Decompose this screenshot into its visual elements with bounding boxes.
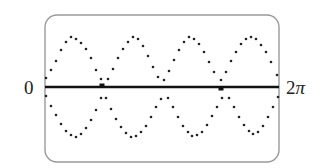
data-point — [65, 41, 68, 44]
data-point — [255, 38, 258, 41]
data-point — [198, 43, 201, 46]
data-point — [213, 71, 216, 74]
data-point — [90, 119, 93, 122]
data-point — [238, 116, 241, 119]
data-point — [257, 131, 260, 134]
data-point — [206, 124, 209, 127]
axis-marker — [219, 87, 224, 91]
data-point — [201, 131, 204, 134]
data-point — [60, 123, 63, 126]
data-point — [130, 136, 133, 139]
data-point — [140, 131, 143, 134]
data-point — [262, 125, 265, 128]
plot-area — [0, 0, 330, 168]
data-point — [137, 38, 140, 41]
data-point — [167, 97, 170, 100]
axis-label-end: 2π — [286, 78, 305, 97]
data-point — [122, 48, 125, 51]
data-point — [182, 125, 185, 128]
lower-curve-dots — [45, 95, 280, 139]
axis-marker — [100, 84, 105, 88]
data-point — [177, 116, 180, 119]
pi-symbol: π — [296, 77, 306, 98]
data-point — [228, 97, 231, 100]
data-point — [115, 118, 118, 121]
data-point — [163, 79, 166, 82]
data-point — [45, 95, 48, 98]
data-point — [172, 106, 175, 109]
data-point — [230, 60, 233, 63]
data-point — [80, 42, 83, 45]
data-point — [110, 108, 113, 111]
data-point — [132, 36, 135, 39]
data-point — [178, 49, 181, 52]
data-point — [55, 60, 58, 63]
data-point — [240, 43, 243, 46]
data-point — [216, 106, 219, 109]
data-point — [145, 125, 148, 128]
data-point — [60, 49, 63, 52]
data-point — [45, 77, 48, 80]
data-point — [95, 69, 98, 72]
data-point — [270, 61, 273, 64]
data-point — [107, 78, 110, 81]
data-point — [191, 135, 194, 138]
axis-label-end-number: 2 — [286, 77, 296, 98]
data-point — [75, 136, 78, 139]
data-point — [196, 134, 199, 137]
data-point — [188, 36, 191, 39]
data-point — [173, 59, 176, 62]
data-point — [243, 124, 246, 127]
data-point — [265, 51, 268, 54]
data-point — [203, 51, 206, 54]
plot-frame — [45, 15, 279, 162]
data-point — [245, 38, 248, 41]
data-point — [152, 66, 155, 69]
data-point — [135, 135, 138, 138]
data-point — [233, 106, 236, 109]
data-point — [127, 41, 130, 44]
data-point — [95, 109, 98, 112]
data-point — [85, 48, 88, 51]
data-point — [70, 36, 73, 39]
data-point — [235, 51, 238, 54]
data-point — [193, 38, 196, 41]
data-point — [65, 130, 68, 133]
data-point — [75, 38, 78, 41]
data-point — [105, 97, 108, 100]
data-point — [157, 76, 160, 79]
data-point — [260, 44, 263, 47]
data-point — [147, 55, 150, 58]
data-point — [208, 61, 211, 64]
data-point — [252, 133, 255, 136]
upper-curve-dots — [45, 36, 279, 82]
data-point — [50, 105, 53, 108]
data-point — [272, 106, 275, 109]
data-point — [100, 78, 103, 81]
data-point — [183, 41, 186, 44]
axis-label-start: 0 — [24, 78, 34, 97]
data-point — [225, 71, 228, 74]
data-point — [187, 131, 190, 134]
data-point — [117, 57, 120, 60]
data-point — [50, 69, 53, 72]
data-point — [150, 116, 153, 119]
data-point — [160, 98, 163, 101]
data-point — [80, 133, 83, 136]
data-point — [90, 57, 93, 60]
data-point — [220, 79, 223, 82]
data-point — [55, 114, 58, 117]
data-point — [112, 68, 115, 71]
data-point — [120, 126, 123, 129]
data-point — [70, 134, 73, 137]
data-point — [85, 127, 88, 130]
data-point — [250, 36, 253, 39]
data-point — [248, 130, 251, 133]
data-point — [155, 106, 158, 109]
data-point — [142, 45, 145, 48]
data-point — [277, 96, 280, 99]
data-point — [168, 70, 171, 73]
data-point — [221, 97, 224, 100]
data-point — [211, 115, 214, 118]
data-point — [125, 132, 128, 135]
